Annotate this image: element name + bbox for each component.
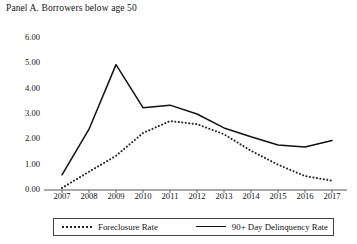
- page-title: Panel A. Borrowers below age 50: [6, 3, 137, 13]
- legend-item-delinquency: 90+ Day Delinquency Rate: [196, 222, 328, 232]
- x-axis-tick-label: 2015: [263, 191, 293, 201]
- y-axis-tick-label: 6.00: [6, 32, 40, 42]
- chart-figure: Panel A. Borrowers below age 50 0.001.00…: [0, 0, 357, 244]
- dotted-line-icon: [62, 222, 92, 232]
- series-layer: [62, 65, 332, 188]
- x-axis-tick-label: 2016: [290, 191, 320, 201]
- solid-line-icon: [196, 222, 226, 232]
- x-axis-tick-label: 2010: [128, 191, 158, 201]
- x-axis-tick-label: 2013: [209, 191, 239, 201]
- x-axis-tick-label: 2014: [236, 191, 266, 201]
- chart-legend: Foreclosure Rate 90+ Day Delinquency Rat…: [53, 218, 334, 236]
- y-axis-tick-label: 3.00: [6, 108, 40, 118]
- x-axis-tick-label: 2011: [155, 191, 185, 201]
- legend-label-delinquency: 90+ Day Delinquency Rate: [232, 222, 328, 232]
- y-axis-tick-label: 2.00: [6, 133, 40, 143]
- series-line-1: [62, 121, 332, 188]
- x-axis-tick-label: 2007: [47, 191, 77, 201]
- chart-svg: [0, 24, 357, 206]
- legend-label-foreclosure: Foreclosure Rate: [98, 222, 158, 232]
- x-axis-tick-label: 2012: [182, 191, 212, 201]
- legend-item-foreclosure: Foreclosure Rate: [62, 222, 158, 232]
- x-axis-tick-label: 2009: [101, 191, 131, 201]
- plot-area: 0.001.002.003.004.005.006.00: [0, 24, 357, 206]
- x-axis-tick-labels: 2007200820092010201120122013201420152016…: [0, 191, 357, 205]
- series-line-2: [62, 65, 332, 175]
- x-axis-tick-label: 2017: [317, 191, 347, 201]
- y-axis-tick-label: 1.00: [6, 159, 40, 169]
- y-axis-tick-label: 4.00: [6, 83, 40, 93]
- x-axis-tick-label: 2008: [74, 191, 104, 201]
- y-axis-tick-label: 5.00: [6, 57, 40, 67]
